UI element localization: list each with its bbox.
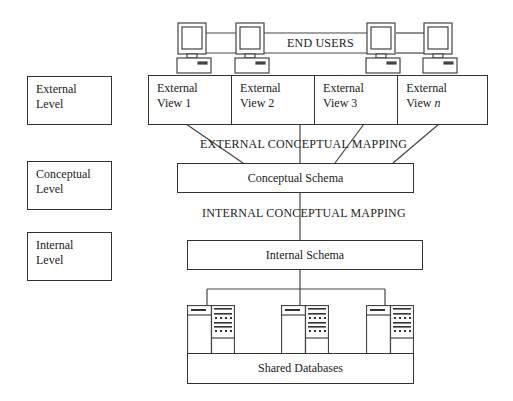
conceptual-level-line2: Level [36, 182, 111, 197]
internal-schema-box: Internal Schema [187, 240, 423, 270]
external-view-3: External View 3 [315, 76, 398, 124]
computer-icon [365, 22, 401, 74]
external-view-n-italic: n [434, 96, 440, 110]
shared-databases-label: Shared Databases [258, 361, 343, 376]
shared-databases-box: Shared Databases [187, 353, 414, 384]
external-level-line2: Level [36, 97, 111, 112]
conceptual-level-box: Conceptual Level [27, 161, 112, 210]
external-level-line1: External [36, 82, 111, 97]
internal-schema-label: Internal Schema [266, 248, 344, 263]
external-conceptual-mapping-label: EXTERNAL CONCEPTUAL MAPPING [200, 137, 407, 152]
internal-level-box: Internal Level [27, 232, 112, 281]
external-view-2: External View 2 [232, 76, 315, 124]
external-view-1-line2: View 1 [157, 96, 231, 111]
external-view-2-line1: External [240, 81, 314, 96]
external-view-n-line1: External [406, 81, 487, 96]
internal-conceptual-mapping-label: INTERNAL CONCEPTUAL MAPPING [202, 206, 406, 221]
server-icon [366, 305, 414, 355]
internal-level-line1: Internal [36, 238, 111, 253]
external-level-box: External Level [27, 76, 112, 125]
conceptual-schema-label: Conceptual Schema [248, 171, 344, 186]
external-views-row: External View 1 External View 2 External… [148, 75, 488, 125]
end-users-label: END USERS [287, 36, 354, 51]
internal-level-line2: Level [36, 253, 111, 268]
external-view-n-prefix: View [406, 96, 434, 110]
external-view-1-line1: External [157, 81, 231, 96]
external-view-3-line2: View 3 [323, 96, 397, 111]
computer-icon [234, 22, 270, 74]
computer-icon [422, 22, 458, 74]
external-view-n: External View n [398, 76, 487, 124]
external-view-1: External View 1 [149, 76, 232, 124]
external-view-2-line2: View 2 [240, 96, 314, 111]
server-icon [281, 305, 329, 355]
conceptual-level-line1: Conceptual [36, 167, 111, 182]
external-view-3-line1: External [323, 81, 397, 96]
computer-icon [176, 22, 212, 74]
external-view-n-line2: View n [406, 96, 487, 111]
conceptual-schema-box: Conceptual Schema [177, 163, 414, 193]
server-icon [187, 305, 235, 355]
